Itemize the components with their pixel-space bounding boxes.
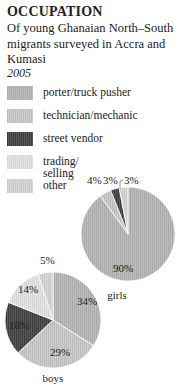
- boys-pie-title: boys: [43, 372, 64, 384]
- boys-label-trading: 14%: [18, 283, 38, 295]
- girls-label-technician: 4%: [87, 174, 102, 186]
- boys-label-other: 5%: [40, 254, 55, 266]
- girls-label-other: 3%: [124, 174, 139, 186]
- boys-label-porter: 34%: [77, 295, 97, 307]
- boys-label-technician: 29%: [50, 346, 70, 358]
- girls-label-street-vendor: 3%: [103, 174, 118, 186]
- girls-label-porter: 90%: [113, 262, 133, 274]
- girls-pie-title: girls: [107, 289, 127, 301]
- boys-label-street-vendor: 18%: [9, 319, 29, 331]
- pie-charts: 90% 4% 3% 3% girls 34% 29% 18% 14% 5% bo…: [0, 0, 179, 389]
